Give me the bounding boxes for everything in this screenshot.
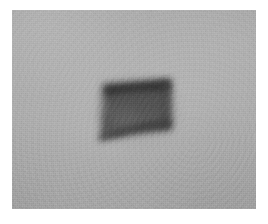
screenshot-root — [0, 0, 268, 224]
background-shading — [12, 10, 256, 209]
photograph-plate — [12, 10, 256, 209]
